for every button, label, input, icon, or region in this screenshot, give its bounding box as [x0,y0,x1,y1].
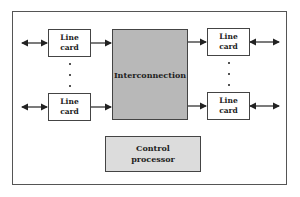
ellipsis-dot [228,84,230,86]
output-line-card-1: Line card [207,28,250,56]
input-line-card-1: Line card [48,29,91,57]
ellipsis-dot [69,74,71,76]
ellipsis-dot [228,62,230,64]
control-processor-block: Control processor [105,136,201,172]
ellipsis-dot [69,85,71,87]
card-label-line2: card [219,42,238,52]
ellipsis-dot [69,63,71,65]
card-label-line2: card [60,43,79,53]
ellipsis-dot [228,73,230,75]
card-label-line1: Line [60,33,79,43]
card-label-line1: Line [60,97,79,107]
output-line-card-2: Line card [207,92,250,120]
control-label-line1: Control [131,143,175,154]
input-line-card-2: Line card [48,93,91,121]
card-label-line2: card [60,107,79,117]
card-label-line1: Line [219,96,238,106]
card-label-line2: card [219,106,238,116]
card-label-line1: Line [219,32,238,42]
interconnection-label: Interconnection [114,70,186,80]
control-label-line2: processor [131,154,175,165]
interconnection-block: Interconnection [112,29,188,120]
